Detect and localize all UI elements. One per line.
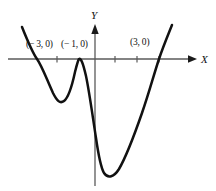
vertical-axis bbox=[91, 24, 98, 186]
root-label-three: (3, 0) bbox=[130, 37, 149, 47]
y-axis-arrowhead bbox=[91, 24, 98, 34]
x-axis-arrowhead bbox=[188, 55, 197, 63]
x-axis-label: X bbox=[200, 53, 209, 65]
root-label-neg-three: (− 3, 0) bbox=[26, 39, 53, 49]
graph-figure: Y X (− 3, 0) (− 1, 0) (3, 0) bbox=[0, 0, 216, 191]
y-axis-label: Y bbox=[91, 9, 99, 21]
root-label-neg-one: (− 1, 0) bbox=[61, 39, 88, 49]
coordinate-plot: Y X bbox=[0, 0, 216, 191]
